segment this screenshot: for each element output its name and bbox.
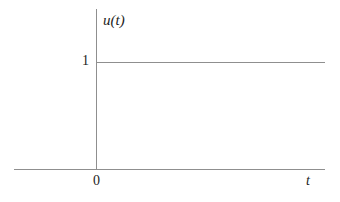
unit-step-curve xyxy=(96,62,325,63)
x-axis-label: t xyxy=(306,174,310,188)
y-tick-label-1: 1 xyxy=(82,54,89,68)
x-axis-line xyxy=(14,169,325,170)
y-axis-label: u(t) xyxy=(103,13,125,28)
origin-label: 0 xyxy=(93,174,100,188)
y-axis-line xyxy=(96,9,97,170)
unit-step-function-figure: u(t) 1 0 t xyxy=(0,0,340,202)
